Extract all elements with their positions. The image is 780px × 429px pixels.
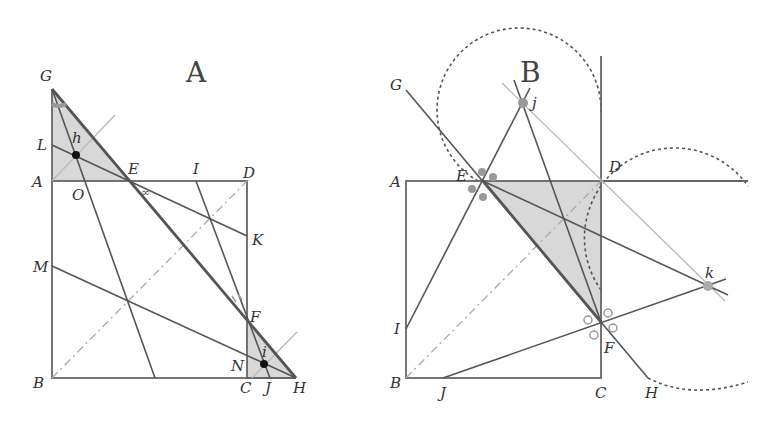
angle-mark-e-2 <box>489 173 497 181</box>
line-e-k <box>483 181 728 295</box>
label-j: J <box>262 379 272 397</box>
point-k <box>703 281 713 291</box>
label-i-upper: I <box>192 160 200 178</box>
diagram-b-title: B <box>520 56 541 89</box>
label-g: G <box>40 67 52 85</box>
point-i <box>260 360 268 368</box>
label-e: E <box>127 160 139 178</box>
angle-mark-g <box>52 104 66 106</box>
label-f-b: F <box>603 339 615 357</box>
point-j <box>518 98 528 108</box>
label-d: D <box>242 164 255 182</box>
label-m: M <box>32 258 49 276</box>
angle-mark-f-1 <box>604 309 612 317</box>
label-l: L <box>36 136 47 154</box>
label-d-b: D <box>608 158 621 176</box>
angle-mark-e-1 <box>478 168 486 176</box>
point-h <box>72 151 80 159</box>
angle-mark-e: ∞ <box>141 186 150 199</box>
label-c-b: C <box>595 384 607 402</box>
angle-mark-f-3 <box>609 324 617 332</box>
label-h: h <box>72 129 82 147</box>
label-n: N <box>230 357 245 375</box>
diagram-a: A ∞ G A L <box>30 56 307 397</box>
diagram-b: B <box>388 28 748 402</box>
label-b-b: B <box>389 374 401 392</box>
dotted-arc-lower-right <box>648 378 748 390</box>
label-e-b: E <box>455 167 467 185</box>
angle-mark-e-3 <box>468 185 476 193</box>
label-c: C <box>240 379 252 397</box>
label-i-lower: i <box>262 343 267 361</box>
label-h-b: H <box>644 384 659 402</box>
label-i-b: I <box>393 320 401 338</box>
label-k: K <box>251 231 264 249</box>
angle-mark-f-2 <box>584 316 592 324</box>
angle-mark-f-4 <box>590 331 598 339</box>
label-a: A <box>30 173 43 191</box>
label-f: F <box>249 308 261 326</box>
diagram-a-title: A <box>185 56 207 89</box>
label-b: B <box>32 374 44 392</box>
geometry-figure: A ∞ G A L <box>0 0 780 429</box>
label-j-upper-b: J <box>437 384 447 402</box>
label-a-b: A <box>388 173 401 191</box>
label-g-b: G <box>390 76 402 94</box>
line-g-o <box>52 89 155 378</box>
label-o: O <box>72 186 84 204</box>
label-h-upper: H <box>292 379 307 397</box>
label-k-b: k <box>705 264 714 282</box>
label-j-lower-b: j <box>529 94 537 112</box>
angle-mark-e-4 <box>479 193 487 201</box>
